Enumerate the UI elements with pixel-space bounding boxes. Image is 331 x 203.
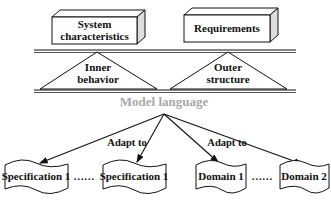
doc-domain-1: Domain 1 [196,160,246,193]
upper-beam [34,50,296,53]
doc-label: Domain 1 [198,170,244,182]
box-label-line2: characteristics [60,30,129,42]
requirements-box: Requirements [184,8,278,42]
inner-behavior-triangle: Inner behavior [40,52,157,89]
triangle-label-line1: Outer [214,61,242,73]
doc-spec-1a: Specification 1 [2,160,71,194]
doc-spec-1b: Specification 1 [100,160,169,194]
arrows [40,114,302,164]
diagram: System characteristics Requirements Inne… [0,0,331,203]
ellipsis-1: …… [74,171,95,182]
triangle-label-line2: structure [206,73,249,85]
triangle-label-line2: behavior [77,73,119,85]
adapt-to-label-2: Adapt to [207,137,246,148]
triangle-label-line1: Inner [85,61,111,73]
doc-domain-2: Domain 2 [280,160,329,193]
doc-label: Specification 1 [100,170,169,182]
adapt-to-label-1: Adapt to [107,137,146,148]
box-label: Requirements [194,22,261,34]
outer-structure-triangle: Outer structure [170,52,287,89]
doc-label: Domain 2 [281,170,327,182]
model-language-label: Model language [120,94,209,109]
ellipsis-2: …… [252,171,273,182]
doc-label: Specification 1 [2,170,71,182]
box-label-line1: System [78,18,112,30]
system-characteristics-box: System characteristics [52,10,145,44]
lower-beam [34,90,296,93]
